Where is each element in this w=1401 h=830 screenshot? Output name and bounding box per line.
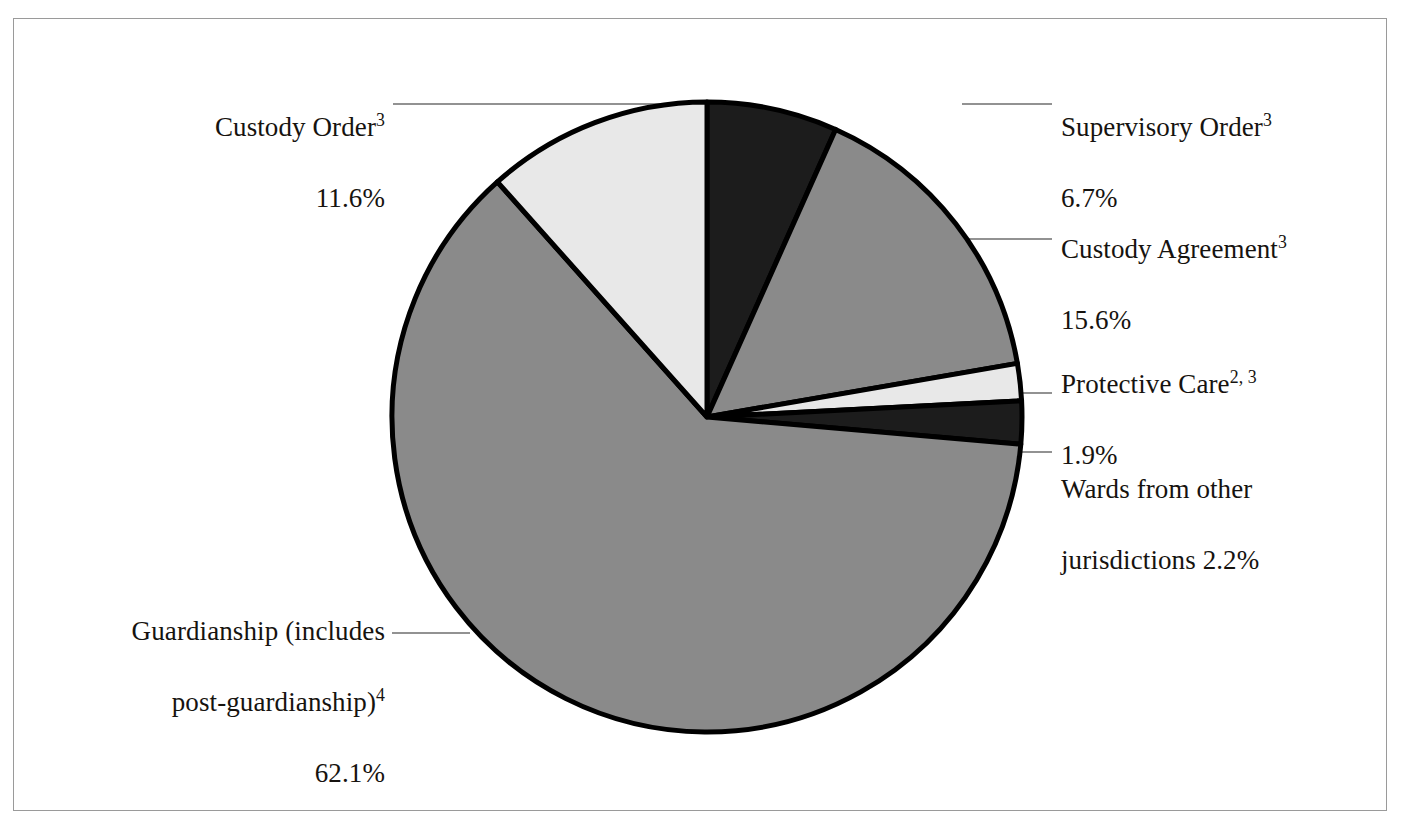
pie-slices-group xyxy=(392,102,1022,732)
callout-custody-agreement-line1: Custody Agreement xyxy=(1061,234,1278,264)
callout-guardianship-line1: Guardianship (includes xyxy=(132,616,385,646)
callout-custody-agreement-footnote: 3 xyxy=(1278,232,1287,252)
callout-custody-order: Custody Order3 11.6% xyxy=(65,74,385,217)
callout-custody-agreement: Custody Agreement3 15.6% xyxy=(1061,196,1391,339)
callout-custody-order-value: 11.6% xyxy=(316,183,385,213)
callout-wards: Wards from other jurisdictions 2.2% xyxy=(1061,436,1381,579)
callout-guardianship: Guardianship (includes post-guardianship… xyxy=(0,578,385,792)
callout-guardianship-line2: post-guardianship) xyxy=(172,687,376,717)
callout-protective-care-line1: Protective Care xyxy=(1061,369,1230,399)
callout-wards-line2: jurisdictions 2.2% xyxy=(1061,545,1259,575)
callout-protective-care-footnote: 2, 3 xyxy=(1230,367,1257,387)
callout-supervisory-order-line1: Supervisory Order xyxy=(1061,112,1263,142)
callout-guardianship-value: 62.1% xyxy=(315,758,385,788)
callout-supervisory-order-footnote: 3 xyxy=(1263,110,1272,130)
callout-wards-line1: Wards from other xyxy=(1061,474,1252,504)
pie-chart-figure: Custody Order3 11.6% Guardianship (inclu… xyxy=(0,0,1401,830)
callout-guardianship-footnote: 4 xyxy=(376,685,385,705)
callout-custody-order-footnote: 3 xyxy=(376,110,385,130)
callout-custody-order-line1: Custody Order xyxy=(215,112,376,142)
